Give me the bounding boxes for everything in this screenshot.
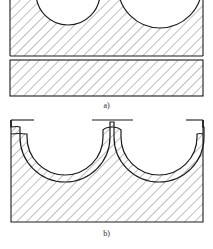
caption-panel-a: a) (0, 101, 213, 110)
panel-b (0, 0, 213, 249)
figure-canvas (0, 0, 213, 249)
panel-b-coating-hatch (0, 0, 213, 249)
technical-figure: a) b) (0, 0, 213, 249)
caption-panel-b: b) (0, 229, 213, 238)
